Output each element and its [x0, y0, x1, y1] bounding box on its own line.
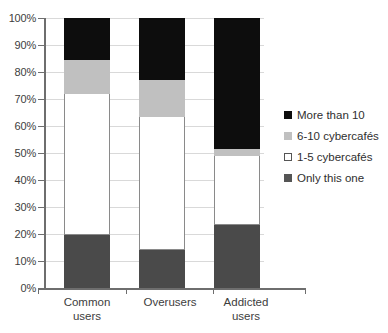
legend-label-6-10-cybercafes: 6-10 cybercafés: [297, 130, 379, 142]
plot-area: [44, 18, 264, 288]
y-tick-label-70: 70%: [0, 94, 36, 105]
segment-6-10-cybercafes: [139, 80, 185, 116]
legend-swatch-icon-1-5-cybercafes: [284, 153, 292, 161]
chart-legend: More than 10 6-10 cybercafés 1-5 cyberca…: [284, 104, 388, 188]
legend-item-more-than-10: More than 10: [284, 104, 388, 125]
y-tick-label-100: 100%: [0, 13, 36, 24]
y-tick-mark-70: [38, 99, 44, 100]
x-axis-label-common-users: Common users: [39, 296, 135, 323]
x-tick-mark-2: [213, 289, 214, 294]
segment-more-than-10: [139, 18, 185, 80]
y-axis-line: [44, 18, 46, 289]
y-tick-label-0: 0%: [0, 283, 36, 294]
y-tick-label-80: 80%: [0, 67, 36, 78]
x-axis-label-addicted-users: Addicted users: [198, 296, 294, 323]
segment-more-than-10: [64, 18, 110, 60]
x-axis-label-line2: users: [39, 310, 135, 324]
x-axis-line: [38, 288, 306, 290]
legend-item-6-10-cybercafes: 6-10 cybercafés: [284, 125, 388, 146]
x-axis-label-line1: Common: [39, 296, 135, 310]
x-tick-mark-end: [305, 289, 306, 294]
x-axis-label-line1: Addicted: [198, 296, 294, 310]
segment-only-this-one: [214, 225, 260, 288]
y-tick-mark-50: [38, 153, 44, 154]
y-tick-mark-100: [38, 18, 44, 19]
legend-item-only-this-one: Only this one: [284, 167, 388, 188]
segment-more-than-10: [214, 18, 260, 149]
y-tick-mark-60: [38, 126, 44, 127]
segment-1-5-cybercafes: [64, 93, 110, 236]
y-tick-mark-30: [38, 207, 44, 208]
stacked-bar-chart: 100% 90% 80% 70% 60% 50% 40% 30% 20% 10%…: [0, 0, 388, 333]
y-tick-mark-80: [38, 72, 44, 73]
segment-6-10-cybercafes: [214, 149, 260, 156]
segment-1-5-cybercafes: [214, 155, 260, 224]
x-tick-mark-1: [126, 289, 127, 294]
y-tick-label-20: 20%: [0, 229, 36, 240]
legend-label-more-than-10: More than 10: [297, 109, 365, 121]
segment-only-this-one: [139, 250, 185, 288]
x-axis-label-line2: users: [198, 310, 294, 324]
y-tick-mark-20: [38, 234, 44, 235]
legend-label-1-5-cybercafes: 1-5 cybercafés: [297, 151, 372, 163]
legend-item-1-5-cybercafes: 1-5 cybercafés: [284, 146, 388, 167]
segment-only-this-one: [64, 235, 110, 288]
legend-swatch-icon-more-than-10: [284, 111, 292, 119]
y-tick-label-60: 60%: [0, 121, 36, 132]
legend-label-only-this-one: Only this one: [297, 172, 364, 184]
y-tick-mark-10: [38, 261, 44, 262]
segment-6-10-cybercafes: [64, 60, 110, 94]
y-tick-mark-40: [38, 180, 44, 181]
y-tick-label-50: 50%: [0, 148, 36, 159]
y-tick-mark-90: [38, 45, 44, 46]
legend-swatch-icon-only-this-one: [284, 174, 292, 182]
x-tick-mark-start: [38, 289, 39, 294]
y-tick-label-90: 90%: [0, 40, 36, 51]
legend-swatch-icon-6-10-cybercafes: [284, 132, 292, 140]
y-tick-label-40: 40%: [0, 175, 36, 186]
y-tick-label-30: 30%: [0, 202, 36, 213]
y-tick-label-10: 10%: [0, 256, 36, 267]
segment-1-5-cybercafes: [139, 116, 185, 250]
